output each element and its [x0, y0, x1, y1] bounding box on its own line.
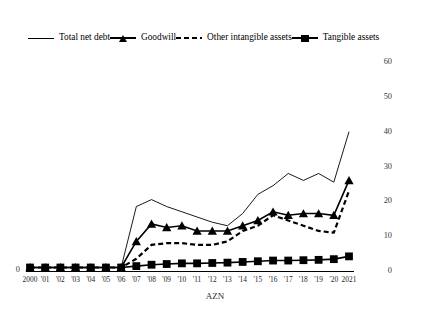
- y-axis-tick-label: 60: [372, 57, 392, 67]
- y-axis-title: Index of total net debt, goodwill, other…: [398, 30, 432, 280]
- x-axis-line: [26, 271, 354, 272]
- marker-goodwill: [147, 220, 156, 228]
- line-triangle-icon: [110, 33, 136, 44]
- marker-tangible-assets: [345, 252, 353, 260]
- legend-item-goodwill: Goodwill: [110, 33, 176, 44]
- x-axis-ticks: 2000'01'02'03'04'05'06'07'08'09'10'11'12…: [0, 274, 432, 288]
- marker-tangible-assets: [132, 262, 140, 270]
- marker-tangible-assets: [239, 258, 247, 266]
- legend-label: Goodwill: [141, 33, 176, 42]
- y-axis-tick-label: 40: [372, 127, 392, 137]
- marker-tangible-assets: [315, 256, 323, 264]
- marker-tangible-assets: [148, 261, 156, 269]
- marker-goodwill: [344, 176, 353, 184]
- marker-tangible-assets: [208, 259, 216, 267]
- series-lines: [26, 62, 353, 271]
- marker-tangible-assets: [178, 259, 186, 267]
- marker-tangible-assets: [300, 256, 308, 264]
- legend-item-tangible-assets: Tangible assets: [292, 33, 379, 44]
- series-line-other-intangible-assets: [30, 191, 349, 268]
- marker-tangible-assets: [224, 259, 232, 267]
- plot-area: [26, 62, 353, 271]
- y-axis-right-ticks: 0102030405060: [372, 0, 398, 315]
- x-axis-title: AZN: [175, 290, 255, 302]
- y-axis-tick-label: 20: [372, 196, 392, 206]
- marker-tangible-assets: [269, 257, 277, 265]
- legend-item-other-intangible-assets: Other intangible assets: [176, 33, 292, 44]
- marker-goodwill: [253, 216, 262, 224]
- marker-tangible-assets: [330, 255, 338, 263]
- marker-tangible-assets: [163, 260, 171, 268]
- y-axis-title-wrap: Index of total net debt, goodwill, other…: [398, 30, 416, 280]
- legend-label: Tangible assets: [323, 33, 379, 42]
- line-dashed-icon: [176, 33, 202, 44]
- marker-tangible-assets: [254, 257, 262, 265]
- legend-item-total-net-debt: Total net debt: [28, 33, 110, 44]
- y-axis-tick-label: 50: [372, 92, 392, 102]
- marker-goodwill: [268, 207, 277, 215]
- line-plain-icon: [28, 33, 54, 44]
- legend-label: Total net debt: [59, 33, 110, 42]
- marker-tangible-assets: [193, 259, 201, 267]
- x-axis-tick-label: 2021: [335, 274, 363, 286]
- series-line-total-net-debt: [30, 132, 349, 268]
- y-axis-tick-label: 30: [372, 162, 392, 172]
- y-axis-tick-label: 10: [372, 231, 392, 241]
- marker-tangible-assets: [284, 257, 292, 265]
- chart-legend: Total net debt Goodwill Other intangible…: [28, 28, 378, 48]
- line-square-icon: [292, 33, 318, 44]
- chart-container: Total net debt Goodwill Other intangible…: [0, 0, 432, 315]
- legend-label: Other intangible assets: [207, 33, 292, 42]
